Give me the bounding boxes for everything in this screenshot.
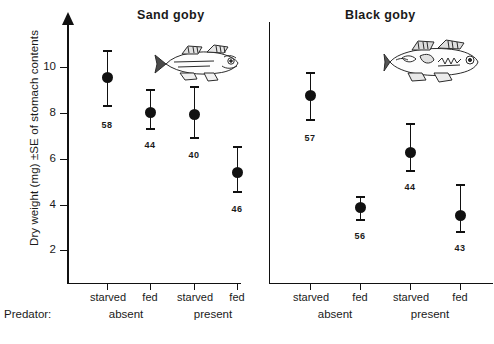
y-tick-mark <box>60 159 68 160</box>
x-tick-label-starved-present-right: starved <box>382 291 440 303</box>
error-bar-cap-upper <box>306 72 315 74</box>
y-tick-label-8: 8 <box>34 106 56 118</box>
x-tick-label-fed-present-right: fed <box>440 291 480 303</box>
data-point <box>189 109 200 120</box>
figure-canvas: Dry weight (mg) ±SE of stomach contents … <box>0 0 494 344</box>
x-tick-label-starved-absent-right: starved <box>282 291 340 303</box>
error-bar-cap-upper <box>233 146 242 148</box>
sample-size-label: 56 <box>347 231 373 241</box>
x-tick-mark <box>150 284 151 290</box>
group-label-present-right: present <box>395 308 465 320</box>
x-axis-line-left <box>67 283 241 284</box>
sample-size-label: 40 <box>181 150 207 160</box>
group-label-absent-left: absent <box>91 308 161 320</box>
data-point <box>455 210 466 221</box>
error-bar <box>460 184 462 232</box>
error-bar-cap-upper <box>146 89 155 91</box>
x-tick-mark <box>310 284 311 290</box>
sand-goby-illustration <box>152 40 242 84</box>
x-tick-mark <box>107 284 108 290</box>
predator-axis-label: Predator: <box>4 308 51 320</box>
y-tick-label-6: 6 <box>34 152 56 164</box>
black-goby-illustration <box>382 38 482 84</box>
error-bar-cap-upper <box>356 196 365 198</box>
error-bar-cap-lower <box>306 119 315 121</box>
data-point <box>405 147 416 158</box>
data-point <box>305 90 316 101</box>
error-bar-cap-upper <box>190 86 199 88</box>
x-tick-label-starved-absent-left: starved <box>79 291 137 303</box>
panel-title-black-goby: Black goby <box>345 8 416 22</box>
x-tick-label-fed-absent-left: fed <box>130 291 170 303</box>
y-tick-mark <box>60 250 68 251</box>
data-point <box>145 107 156 118</box>
error-bar-cap-lower <box>456 231 465 233</box>
data-point <box>102 72 113 83</box>
error-bar-cap-upper <box>406 123 415 125</box>
data-point <box>355 202 366 213</box>
error-bar-cap-lower <box>103 105 112 107</box>
group-label-absent-right: absent <box>300 308 370 320</box>
panel-title-sand-goby: Sand goby <box>137 8 205 22</box>
error-bar-cap-lower <box>406 170 415 172</box>
x-tick-mark <box>194 284 195 290</box>
x-tick-mark <box>237 284 238 290</box>
y-axis-label: Dry weight (mg) ±SE of stomach contents <box>28 8 40 268</box>
error-bar-cap-lower <box>146 128 155 130</box>
sample-size-label: 43 <box>447 243 473 253</box>
sample-size-label: 57 <box>297 133 323 143</box>
x-tick-label-starved-present-left: starved <box>166 291 224 303</box>
y-axis-line <box>67 22 69 284</box>
sample-size-label: 46 <box>224 204 250 214</box>
data-point <box>232 167 243 178</box>
y-tick-mark <box>60 205 68 206</box>
x-tick-mark <box>410 284 411 290</box>
y-tick-label-4: 4 <box>34 198 56 210</box>
x-tick-label-fed-absent-right: fed <box>340 291 380 303</box>
sample-size-label: 58 <box>94 120 120 130</box>
sample-size-label: 44 <box>137 140 163 150</box>
error-bar-cap-lower <box>190 137 199 139</box>
x-tick-label-fed-present-left: fed <box>217 291 257 303</box>
x-tick-mark <box>460 284 461 290</box>
error-bar-cap-upper <box>456 184 465 186</box>
error-bar-cap-lower <box>233 191 242 193</box>
sample-size-label: 44 <box>397 182 423 192</box>
x-tick-mark <box>360 284 361 290</box>
y-tick-mark <box>60 113 68 114</box>
group-label-present-left: present <box>178 308 248 320</box>
error-bar-cap-upper <box>103 50 112 52</box>
error-bar-cap-lower <box>356 219 365 221</box>
y-tick-mark <box>60 67 68 68</box>
y-tick-label-2: 2 <box>34 243 56 255</box>
panel-divider-line <box>269 22 270 284</box>
y-tick-label-10: 10 <box>34 60 56 72</box>
